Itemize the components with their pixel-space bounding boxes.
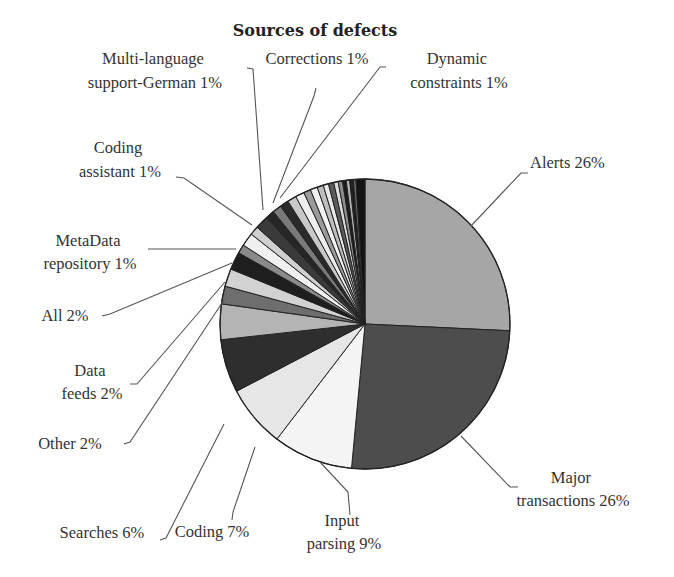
label-multilang: Multi-language support-German 1% [88, 49, 223, 92]
leader-major [461, 436, 518, 487]
label-searches: Searches 6% [60, 523, 145, 542]
label-all: All 2% [41, 306, 88, 325]
leader-corrections [273, 88, 316, 203]
label-alerts: Alerts 26% [530, 153, 605, 172]
label-major: Major transactions 26% [516, 468, 629, 510]
label-datafeeds: Data feeds 2% [62, 361, 123, 403]
label-metadata: MetaData repository 1% [43, 231, 136, 273]
leader-multilang [247, 68, 263, 210]
label-coding: Coding 7% [175, 522, 250, 541]
leader-coding [232, 447, 255, 520]
label-input: Input parsing 9% [307, 511, 382, 553]
chart-title: Sources of defects [233, 21, 397, 40]
leader-codingassistant [176, 177, 252, 225]
leader-alerts [471, 173, 528, 226]
leader-other [124, 300, 224, 444]
pie-slice-alerts [365, 179, 510, 331]
label-other: Other 2% [38, 434, 102, 453]
pie-chart: Sources of defects Alerts 26% Major tran… [0, 0, 674, 577]
leader-datafeeds [130, 282, 225, 384]
leader-input [320, 462, 350, 515]
pie-slice-major-transactions [351, 324, 509, 469]
label-codingassistant: Coding assistant 1% [79, 138, 161, 181]
pie-slices [220, 179, 510, 469]
label-corrections: Corrections 1% [265, 49, 368, 68]
label-dynamic: Dynamic constraints 1% [410, 49, 508, 92]
leader-dynamic [280, 67, 386, 198]
